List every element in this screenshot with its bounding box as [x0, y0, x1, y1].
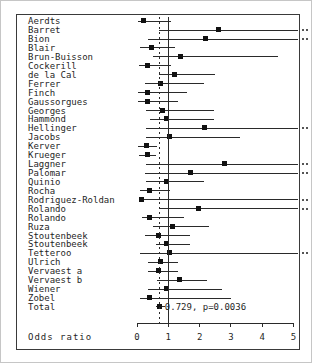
- x-axis-title: Odds ratio: [28, 332, 92, 342]
- confidence-interval-line: [157, 280, 207, 281]
- odds-ratio-marker: [147, 188, 152, 193]
- ci-truncation-dot: [306, 252, 308, 254]
- x-axis-tick: [199, 323, 200, 327]
- odds-ratio-marker: [216, 27, 221, 32]
- odds-ratio-marker: [147, 215, 152, 220]
- x-tick-label: 5: [291, 332, 296, 342]
- x-tick-label: 0: [134, 332, 139, 342]
- ci-truncation-dot: [306, 38, 308, 40]
- ci-truncation-dot: [302, 163, 304, 165]
- x-axis-tick: [168, 323, 169, 327]
- x-axis-tick: [137, 323, 138, 327]
- confidence-interval-line: [146, 128, 298, 129]
- odds-ratio-marker: [202, 125, 207, 130]
- x-axis-tick: [262, 323, 263, 327]
- x-tick-label: 4: [259, 332, 264, 342]
- x-axis-tick: [293, 323, 294, 327]
- confidence-interval-line: [145, 83, 204, 84]
- confidence-interval-line: [159, 208, 298, 209]
- confidence-interval-line: [146, 110, 213, 111]
- ci-truncation-dot: [302, 252, 304, 254]
- odds-ratio-marker: [147, 295, 152, 300]
- ci-truncation-dot: [306, 208, 308, 210]
- x-axis-tick: [230, 323, 231, 327]
- confidence-interval-line: [148, 271, 178, 272]
- odds-ratio-marker: [222, 161, 227, 166]
- odds-ratio-marker: [145, 152, 150, 157]
- ci-truncation-dot: [302, 172, 304, 174]
- odds-ratio-marker: [145, 90, 150, 95]
- confidence-interval-line: [140, 253, 298, 254]
- confidence-interval-line: [148, 39, 298, 40]
- ci-truncation-dot: [306, 127, 308, 129]
- odds-ratio-marker: [177, 277, 182, 282]
- odds-ratio-marker: [188, 170, 193, 175]
- ci-truncation-dot: [302, 199, 304, 201]
- confidence-interval-line: [153, 56, 278, 57]
- ci-truncation-dot: [306, 199, 308, 201]
- odds-ratio-marker: [203, 36, 208, 41]
- ci-truncation-dot: [302, 127, 304, 129]
- x-tick-label: 1: [166, 332, 171, 342]
- odds-ratio-marker: [172, 72, 177, 77]
- odds-ratio-marker: [178, 54, 183, 59]
- confidence-interval-line: [138, 101, 178, 102]
- confidence-interval-line: [153, 226, 209, 227]
- confidence-interval-line: [159, 30, 298, 31]
- confidence-interval-line: [139, 65, 172, 66]
- no-effect-reference-line: [168, 17, 169, 323]
- confidence-interval-line: [146, 181, 204, 182]
- odds-ratio-marker: [139, 197, 144, 202]
- odds-ratio-marker: [149, 45, 154, 50]
- odds-ratio-marker: [145, 99, 150, 104]
- odds-ratio-marker: [144, 143, 149, 148]
- ci-truncation-dot: [302, 38, 304, 40]
- odds-ratio-marker: [196, 206, 201, 211]
- x-tick-label: 2: [197, 332, 202, 342]
- x-tick-label: 3: [228, 332, 233, 342]
- confidence-interval-line: [139, 199, 298, 200]
- forest-plot-figure: AerdtsBarretBionBlairBrun-BuissonCockeri…: [0, 0, 312, 363]
- ci-truncation-dot: [306, 163, 308, 165]
- confidence-interval-line: [146, 137, 240, 138]
- ci-truncation-dot: [302, 29, 304, 31]
- ci-truncation-dot: [306, 29, 308, 31]
- odds-ratio-marker: [145, 63, 150, 68]
- confidence-interval-line: [140, 298, 231, 299]
- ci-truncation-dot: [306, 172, 308, 174]
- confidence-interval-line: [156, 244, 190, 245]
- odds-ratio-marker: [170, 224, 175, 229]
- total-annotation: 0.729, p=0.0036: [165, 302, 246, 312]
- confidence-interval-line: [140, 47, 174, 48]
- confidence-interval-line: [140, 190, 170, 191]
- odds-ratio-marker: [141, 18, 146, 23]
- ci-truncation-dot: [302, 208, 304, 210]
- total-label: Total: [28, 302, 55, 312]
- pooled-estimate-dashed-line: [159, 17, 160, 323]
- x-axis-line: [137, 323, 294, 324]
